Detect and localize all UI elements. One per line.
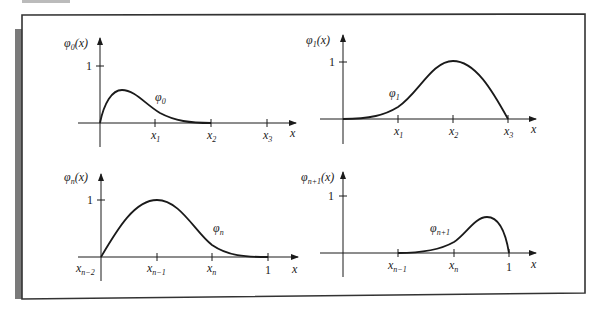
curve-phin1 [398,217,509,253]
x-tick-label: xn [448,258,458,274]
x-tick-label: xn−2 [75,261,95,277]
x-tick-label: 1 [265,263,271,277]
figure: φ0(x) 1 φ0 x1 x2 x3 x φ1(x) 1 φ1 x1 x2 x… [0,0,597,310]
x-tick-label: x1 [150,128,160,144]
y-tick-label: 1 [86,59,92,73]
curve-label: φn+1 [430,221,450,237]
x-tick-label: xn−1 [146,261,166,277]
panel-phin1: φn+1(x) 1 φn+1 xn−1 xn 1 x [301,170,537,277]
x-tick-label: x2 [448,124,458,140]
side-bar [15,29,22,299]
y-tick-label: 1 [328,189,334,203]
x-tick-label: x2 [206,128,216,144]
y-tick-label: 1 [329,55,335,69]
x-tick-label: x3 [262,128,272,144]
y-tick-label: 1 [87,193,93,207]
panel-phi0: φ0(x) 1 φ0 x1 x2 x3 x [64,36,296,147]
x-tick-label: 1 [506,260,512,274]
panel-phin: φn(x) 1 φn xn−2 xn−1 xn 1 x [64,170,298,281]
figure-frame [22,14,585,299]
y-axis-label: φ1(x) [306,33,330,49]
x-axis-label: x [289,126,296,140]
caption-fragment [22,0,70,3]
curve-label: φ0 [155,90,166,106]
y-axis-label: φ0(x) [64,36,88,52]
x-axis-label: x [530,257,537,271]
curve-label: φ1 [389,86,400,102]
y-axis-label: φn+1(x) [301,170,334,186]
x-tick-label: x3 [503,124,513,140]
curve-phi1 [343,61,508,119]
x-tick-label: xn [206,261,216,277]
curve-phin [101,200,268,257]
y-axis-label: φn(x) [64,170,88,186]
panel-phi1: φ1(x) 1 φ1 x1 x2 x3 x [306,33,537,144]
x-axis-label: x [530,122,537,136]
curve-label: φn [213,221,224,237]
x-axis-label: x [291,262,298,276]
x-tick-label: xn−1 [387,258,407,274]
x-tick-label: x1 [393,124,403,140]
